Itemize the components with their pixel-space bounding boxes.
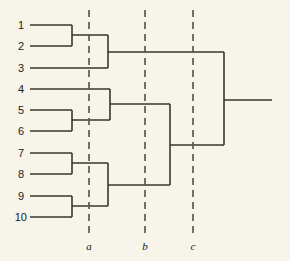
cut-labels-group: abc [86, 240, 195, 252]
connector-lines-group [72, 35, 272, 206]
leaf-label-7: 7 [18, 147, 24, 159]
cut-lines-group [89, 10, 193, 238]
leaf-lines-group [30, 25, 110, 217]
cut-label-c: c [191, 240, 196, 252]
leaf-label-10: 10 [15, 211, 27, 223]
dendrogram-canvas: 12345678910 abc [0, 0, 290, 261]
leaf-label-5: 5 [18, 104, 24, 116]
leaf-label-4: 4 [18, 83, 24, 95]
cut-label-b: b [142, 240, 148, 252]
leaf-labels-group: 12345678910 [15, 19, 27, 223]
leaf-label-3: 3 [18, 62, 24, 74]
cut-label-a: a [86, 240, 92, 252]
leaf-label-9: 9 [18, 190, 24, 202]
leaf-label-6: 6 [18, 125, 24, 137]
leaf-label-2: 2 [18, 40, 24, 52]
dendrogram-figure: 12345678910 abc [0, 0, 290, 261]
merge-lines-group [72, 25, 224, 217]
leaf-label-1: 1 [18, 19, 24, 31]
leaf-label-8: 8 [18, 168, 24, 180]
